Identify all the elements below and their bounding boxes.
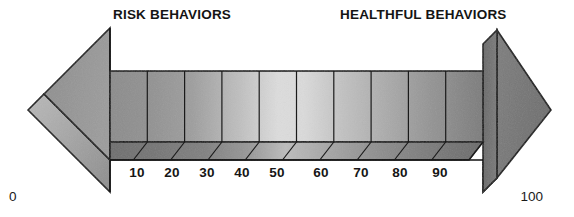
tick-label-10: 10	[129, 165, 144, 180]
tick-label-70: 70	[353, 165, 368, 180]
continuum-bar-bevel	[110, 142, 483, 160]
tick-label-40: 40	[234, 165, 249, 180]
continuum-arrow-graphic: RISK BEHAVIORS HEALTHFUL BEHAVIORS 10 20…	[0, 0, 574, 217]
endpoint-label-min: 0	[9, 189, 17, 204]
behavior-continuum-figure: RISK BEHAVIORS HEALTHFUL BEHAVIORS 10 20…	[0, 0, 574, 217]
tick-label-90: 90	[432, 165, 447, 180]
endpoint-label-max: 100	[520, 189, 543, 204]
right-arrowhead-face	[497, 30, 551, 178]
scale-tick-labels: 10 20 30 40 50 60 70 80 90	[129, 165, 447, 180]
left-arrowhead	[28, 28, 110, 192]
tick-label-80: 80	[392, 165, 407, 180]
continuum-bar	[110, 71, 483, 160]
tick-label-30: 30	[199, 165, 214, 180]
right-arrowhead-band	[483, 30, 497, 192]
right-arrowhead	[483, 30, 551, 192]
healthful-behaviors-label: HEALTHFUL BEHAVIORS	[340, 7, 507, 22]
tick-label-50: 50	[269, 165, 284, 180]
risk-behaviors-label: RISK BEHAVIORS	[113, 7, 231, 22]
tick-label-20: 20	[164, 165, 179, 180]
tick-label-60: 60	[313, 165, 328, 180]
